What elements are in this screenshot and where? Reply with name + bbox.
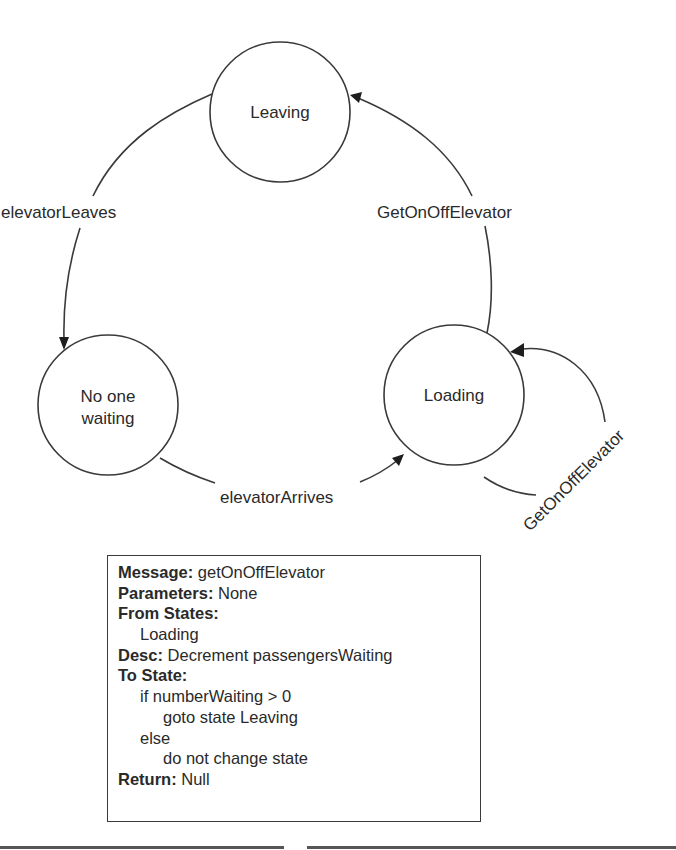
from-states-key: From States: bbox=[118, 604, 219, 622]
to-state-row: To State: bbox=[118, 665, 393, 686]
to-state-line: if numberWaiting > 0 bbox=[118, 686, 393, 707]
parameters-value: None bbox=[213, 584, 257, 602]
desc-value: Decrement passengersWaiting bbox=[163, 646, 393, 664]
desc-row: Desc: Decrement passengersWaiting bbox=[118, 645, 393, 666]
edge-segment bbox=[360, 460, 398, 482]
transition-elevator-arrives: elevatorArrives bbox=[160, 454, 404, 507]
message-value: getOnOffElevator bbox=[193, 563, 325, 581]
desc-key: Desc: bbox=[118, 646, 163, 664]
message-key: Message: bbox=[118, 563, 193, 581]
state-label-leaving: Leaving bbox=[250, 103, 310, 122]
edge-segment bbox=[484, 477, 536, 495]
transition-elevator-leaves: elevatorLeaves bbox=[1, 94, 212, 350]
edge-segment bbox=[485, 226, 491, 333]
edge-segment bbox=[93, 94, 212, 196]
edge-segment bbox=[160, 458, 215, 483]
bottom-divider-right bbox=[307, 846, 676, 849]
edge-label-elevator-leaves: elevatorLeaves bbox=[1, 203, 116, 222]
state-label-no-one-line2: waiting bbox=[81, 409, 135, 428]
to-state-key: To State: bbox=[118, 666, 187, 684]
return-key: Return: bbox=[118, 770, 177, 788]
to-state-line: goto state Leaving bbox=[118, 707, 393, 728]
to-state-line: do not change state bbox=[118, 748, 393, 769]
return-value: Null bbox=[177, 770, 210, 788]
edge-label-get-on-off-elevator: GetOnOffElevator bbox=[377, 203, 512, 222]
edge-label-elevator-arrives: elevatorArrives bbox=[220, 488, 333, 507]
message-row: Message: getOnOffElevator bbox=[118, 562, 393, 583]
from-states-value: Loading bbox=[118, 624, 393, 645]
bottom-divider-left bbox=[0, 846, 284, 849]
state-label-no-one-line1: No one bbox=[81, 387, 136, 406]
edge-label-self-loop: GetOnOffElevator bbox=[519, 426, 628, 535]
edge-segment bbox=[64, 228, 80, 340]
state-loading: Loading bbox=[384, 325, 524, 465]
edge-segment bbox=[522, 349, 605, 422]
transition-get-on-off-to-leaving: GetOnOffElevator bbox=[350, 92, 512, 333]
parameters-row: Parameters: None bbox=[118, 583, 393, 604]
state-no-one-waiting: No one waiting bbox=[38, 335, 178, 475]
from-states-row: From States: bbox=[118, 603, 393, 624]
to-state-line: else bbox=[118, 728, 393, 749]
state-leaving: Leaving bbox=[210, 42, 350, 182]
edge-segment bbox=[358, 98, 472, 196]
arrowhead-icon bbox=[350, 92, 362, 103]
parameters-key: Parameters: bbox=[118, 584, 213, 602]
return-row: Return: Null bbox=[118, 769, 393, 790]
message-spec-box: Message: getOnOffElevator Parameters: No… bbox=[107, 555, 481, 822]
state-label-loading: Loading bbox=[424, 386, 485, 405]
